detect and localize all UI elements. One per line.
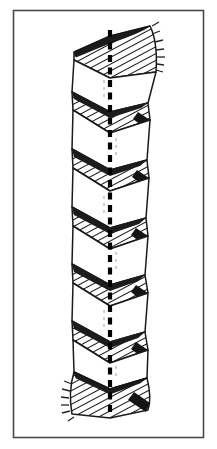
twisted-band-illustration (0, 0, 217, 449)
figure-container: Twisted band with dashed central axis Bl… (0, 0, 217, 449)
